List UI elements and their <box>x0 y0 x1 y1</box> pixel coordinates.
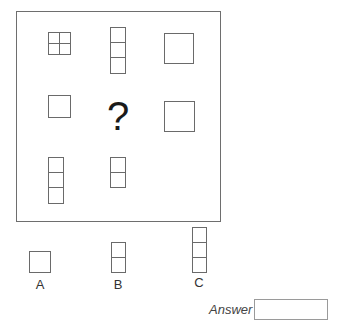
option-c-label[interactable]: C <box>189 275 209 290</box>
option-b-figure[interactable] <box>111 242 126 273</box>
large-square-figure <box>164 101 195 132</box>
divider-line <box>59 33 60 54</box>
divider-line <box>111 172 125 173</box>
answer-label: Answer <box>209 302 252 317</box>
divider-line <box>193 242 206 243</box>
option-a-label[interactable]: A <box>30 277 50 292</box>
small-square-figure <box>48 95 71 118</box>
vertical-three-cell-figure <box>110 27 126 74</box>
missing-figure-question-mark: ? <box>106 96 130 136</box>
divider-line <box>49 172 63 173</box>
grid-square-2x2-figure <box>48 32 71 55</box>
divider-line <box>111 57 125 58</box>
divider-line <box>112 257 125 258</box>
vertical-three-cell-figure <box>48 157 64 204</box>
option-b-label[interactable]: B <box>108 277 128 292</box>
option-c-figure[interactable] <box>192 227 207 273</box>
vertical-two-cell-figure <box>110 157 126 188</box>
large-square-figure <box>164 33 194 64</box>
option-a-figure[interactable] <box>29 251 51 273</box>
divider-line <box>49 187 63 188</box>
divider-line <box>193 257 206 258</box>
answer-input[interactable] <box>254 299 328 320</box>
divider-line <box>111 42 125 43</box>
